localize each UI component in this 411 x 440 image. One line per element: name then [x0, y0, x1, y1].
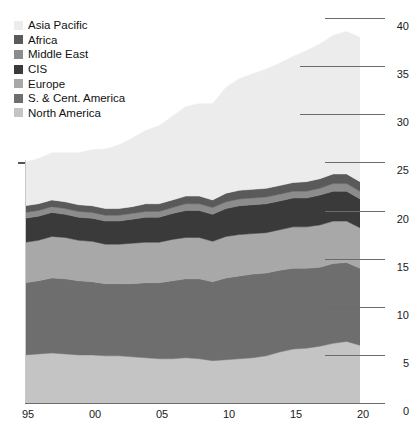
y-tick-25	[300, 162, 385, 163]
y-tick-20	[300, 211, 385, 212]
y-axis-left-line	[25, 160, 26, 403]
y-tick-label-0: 0	[385, 406, 409, 417]
legend-item-label: Middle East	[28, 48, 88, 60]
y-tick-30	[300, 114, 385, 115]
legend-item-s-cent-america[interactable]: S. & Cent. America	[14, 91, 125, 106]
y-tick-label-20: 20	[385, 214, 409, 225]
chart-legend: Asia PacificAfricaMiddle EastCISEuropeS.…	[14, 18, 125, 120]
y-tick-line	[325, 259, 385, 260]
y-tick-label-5: 5	[385, 358, 409, 369]
left-axis-tick-nub	[18, 162, 25, 164]
y-tick-label-25: 25	[385, 165, 409, 176]
legend-item-asia-pacific[interactable]: Asia Pacific	[14, 18, 125, 33]
stacked-area-chart: 950005101520 Asia PacificAfricaMiddle Ea…	[0, 0, 411, 440]
legend-item-middle-east[interactable]: Middle East	[14, 47, 125, 62]
legend-item-label: CIS	[28, 63, 47, 75]
x-tick-label-20: 20	[357, 408, 381, 420]
y-tick-label-35: 35	[385, 69, 409, 80]
legend-swatch-icon	[14, 50, 23, 59]
legend-item-label: S. & Cent. America	[28, 92, 125, 104]
legend-swatch-icon	[14, 21, 23, 30]
y-tick-line	[325, 162, 385, 163]
legend-item-north-america[interactable]: North America	[14, 106, 125, 121]
x-tick-label-05: 05	[156, 408, 180, 420]
y-tick-line	[325, 18, 385, 19]
x-tick-label-95: 95	[22, 408, 46, 420]
y-tick-5	[300, 355, 385, 356]
y-tick-line	[325, 211, 385, 212]
y-tick-0	[300, 403, 385, 404]
y-tick-40	[300, 18, 385, 19]
y-tick-label-15: 15	[385, 262, 409, 273]
legend-swatch-icon	[14, 94, 23, 103]
x-tick-label-10: 10	[223, 408, 247, 420]
legend-swatch-icon	[14, 35, 23, 44]
y-tick-label-10: 10	[385, 310, 409, 321]
legend-item-label: Europe	[28, 78, 65, 90]
legend-item-label: Asia Pacific	[28, 19, 87, 31]
x-tick-label-00: 00	[89, 408, 113, 420]
y-tick-line	[300, 114, 385, 115]
x-tick-label-15: 15	[290, 408, 314, 420]
y-tick-line	[325, 355, 385, 356]
y-tick-35	[300, 66, 385, 67]
y-tick-label-40: 40	[385, 21, 409, 32]
legend-swatch-icon	[14, 79, 23, 88]
y-tick-label-30: 30	[385, 117, 409, 128]
legend-item-europe[interactable]: Europe	[14, 76, 125, 91]
y-tick-15	[300, 259, 385, 260]
legend-swatch-icon	[14, 65, 23, 74]
y-tick-10	[300, 307, 385, 308]
y-tick-line	[325, 307, 385, 308]
legend-item-africa[interactable]: Africa	[14, 33, 125, 48]
legend-item-cis[interactable]: CIS	[14, 62, 125, 77]
y-tick-line	[300, 66, 385, 67]
legend-swatch-icon	[14, 108, 23, 117]
legend-item-label: Africa	[28, 34, 57, 46]
legend-item-label: North America	[28, 107, 101, 119]
